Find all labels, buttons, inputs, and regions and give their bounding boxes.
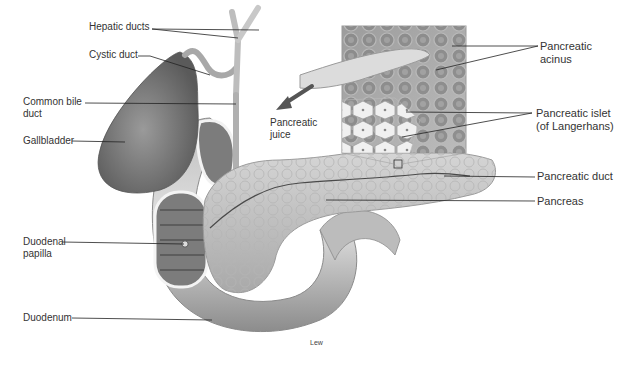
label-pancreatic-juice-line2: juice	[270, 129, 291, 140]
label-pancreatic-acinus-line1: Pancreatic	[540, 40, 592, 52]
label-pancreatic-islet: Pancreatic islet (of Langerhans)	[536, 107, 614, 133]
label-duodenal-papilla-line2: papilla	[23, 248, 52, 259]
label-pancreatic-juice: Pancreatic juice	[270, 117, 317, 141]
label-pancreas: Pancreas	[537, 195, 583, 208]
duodenum-cutaway	[155, 192, 207, 287]
label-cystic-duct: Cystic duct	[89, 49, 138, 61]
magnified-inset	[300, 26, 466, 168]
label-common-bile-duct-line1: Common bile	[23, 96, 82, 107]
label-pancreatic-islet-line2: (of Langerhans)	[536, 120, 614, 132]
label-duodenal-papilla-line1: Duodenal	[23, 236, 66, 247]
label-duodenum: Duodenum	[23, 312, 72, 324]
gallbladder-shape	[98, 52, 198, 193]
label-gallbladder: Gallbladder	[23, 135, 74, 147]
pancreatic-juice-arrow	[276, 86, 312, 110]
illustrator-credit: Lew	[310, 337, 323, 349]
label-duodenal-papilla: Duodenal papilla	[23, 236, 66, 260]
label-common-bile-duct: Common bile duct	[23, 96, 82, 120]
label-pancreatic-acinus: Pancreatic acinus	[540, 40, 592, 66]
label-pancreatic-acinus-line2: acinus	[540, 53, 572, 65]
label-pancreatic-islet-line1: Pancreatic islet	[536, 107, 611, 119]
label-pancreatic-duct: Pancreatic duct	[537, 170, 613, 183]
label-pancreatic-juice-line1: Pancreatic	[270, 117, 317, 128]
label-common-bile-duct-line2: duct	[23, 108, 42, 119]
label-hepatic-ducts: Hepatic ducts	[89, 21, 150, 33]
